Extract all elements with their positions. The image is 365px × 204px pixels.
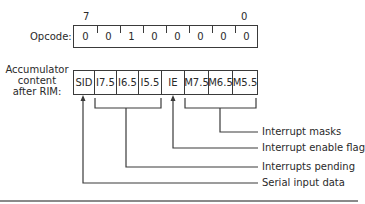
ie-leader (173, 97, 258, 148)
pending-leader (126, 108, 258, 167)
pending-bracket (95, 98, 161, 108)
annotation-interrupt-masks: Interrupt masks (262, 126, 341, 138)
bottom-divider (0, 200, 358, 202)
annotation-interrupt-enable-flag: Interrupt enable flag (262, 142, 365, 154)
ie-arrow-icon (171, 95, 176, 101)
annotation-interrupts-pending: Interrupts pending (262, 161, 355, 173)
annotation-serial-input-data: Serial input data (262, 177, 345, 189)
masks-leader (220, 108, 258, 132)
masks-bracket (185, 98, 256, 108)
sid-arrow-icon (81, 95, 86, 101)
sid-leader (83, 97, 258, 183)
